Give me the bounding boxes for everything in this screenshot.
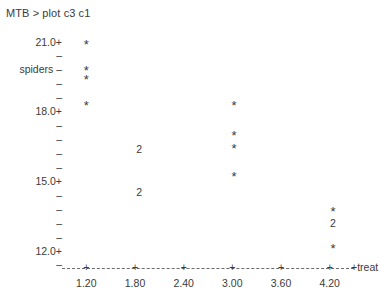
character-plot: 21.0+–spiders –––18.0+––––15.0+––––12.0+… — [0, 0, 380, 302]
data-point-single: * — [231, 101, 236, 111]
y-axis-major-tick: 18.0+ — [0, 106, 62, 117]
x-axis-tick-label: 4.20 — [319, 278, 339, 289]
y-axis-major-tick: 15.0+ — [0, 176, 62, 187]
data-point-single: * — [231, 131, 236, 141]
data-point-single: * — [84, 75, 89, 85]
y-axis-minor-tick: spiders – — [0, 64, 62, 75]
y-axis-minor-tick: – — [0, 259, 62, 270]
x-axis-tick-label: 3.60 — [271, 278, 291, 289]
data-point-cluster: 2 — [136, 187, 142, 197]
y-axis-minor-tick: – — [0, 218, 62, 229]
y-axis-major-tick: 21.0+ — [0, 37, 62, 48]
y-axis-minor-tick: – — [0, 232, 62, 243]
y-axis-minor-tick: – — [0, 204, 62, 215]
y-axis-minor-tick: – — [0, 92, 62, 103]
y-axis-minor-tick: – — [0, 162, 62, 173]
data-point-single: * — [330, 244, 335, 254]
x-axis-tick-label: 3.00 — [222, 278, 242, 289]
x-axis-tick: + — [278, 262, 284, 272]
x-axis-tick-label: 2.40 — [173, 278, 193, 289]
y-axis-minor-tick: – — [0, 78, 62, 89]
x-axis-tick: + — [132, 262, 138, 272]
y-axis-minor-tick: – — [0, 50, 62, 61]
x-axis-tick: + — [327, 262, 333, 272]
y-axis-minor-tick: – — [0, 190, 62, 201]
data-point-single: * — [84, 101, 89, 111]
data-point-single: * — [84, 40, 89, 50]
x-axis-tick-label: 1.20 — [76, 278, 96, 289]
data-point-cluster: 2 — [330, 218, 336, 228]
x-axis: ++++++ +treat — [62, 264, 354, 274]
x-axis-tick: + — [83, 262, 89, 272]
x-axis-title: +treat — [351, 262, 378, 272]
x-axis-line — [62, 268, 354, 269]
y-axis-minor-tick: – — [0, 120, 62, 131]
x-axis-tick-label: 1.80 — [125, 278, 145, 289]
x-axis-tick: + — [229, 262, 235, 272]
data-point-single: * — [231, 172, 236, 182]
data-point-cluster: 2 — [136, 144, 142, 154]
y-axis-major-tick: 12.0+ — [0, 246, 62, 257]
x-axis-tick: + — [181, 262, 187, 272]
data-point-single: * — [231, 144, 236, 154]
y-axis-minor-tick: – — [0, 148, 62, 159]
data-point-single: * — [330, 207, 335, 217]
y-axis-minor-tick: – — [0, 134, 62, 145]
minitab-plot-screen: MTB > plot c3 c1 21.0+–spiders –––18.0+–… — [0, 0, 380, 302]
